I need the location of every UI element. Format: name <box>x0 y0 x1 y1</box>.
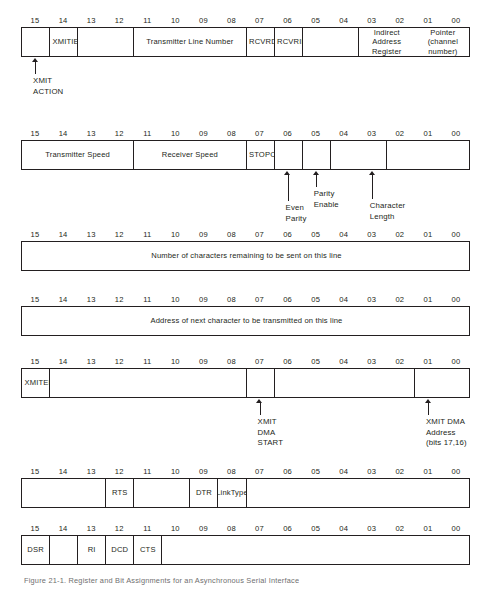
bit-field-labeled: LinkType <box>218 479 246 507</box>
bit-number-label: 13 <box>77 228 105 241</box>
bit-number-label: 10 <box>161 293 189 306</box>
callout-label: EvenParity <box>286 203 307 224</box>
register-4-box: Address of next character to be transmit… <box>21 306 470 336</box>
bit-number-label: 10 <box>161 465 189 478</box>
bit-number-label: 06 <box>274 522 302 535</box>
bit-field-label-line: STOP <box>249 150 270 159</box>
bit-number-label: 11 <box>133 293 161 306</box>
bit-number-label: 03 <box>358 522 386 535</box>
bit-number-label: 06 <box>274 14 302 27</box>
bit-number-label: 00 <box>442 522 470 535</box>
bit-field-labeled: RCVRDONE <box>247 28 275 56</box>
register-6-box: RTSDTRLinkType <box>21 478 470 508</box>
bit-number-label: 07 <box>246 522 274 535</box>
bit-number-label: 11 <box>133 522 161 535</box>
bit-field-label-line: RCVR <box>249 37 271 46</box>
bit-number-label: 11 <box>133 127 161 140</box>
bit-field-empty <box>275 141 303 169</box>
bit-field-empty <box>275 369 415 397</box>
bit-number-label: 06 <box>274 293 302 306</box>
bit-number-label: 01 <box>414 14 442 27</box>
bit-number-label: 14 <box>49 465 77 478</box>
callout-label-line: ACTION <box>33 87 63 98</box>
bit-number-label: 14 <box>49 127 77 140</box>
bit-number-label: 05 <box>302 522 330 535</box>
callout-label-line: (bits 17,16) <box>426 438 467 449</box>
bit-number-label: 08 <box>217 127 245 140</box>
figure-caption: Figure 21-1. Register and Bit Assignment… <box>24 576 299 589</box>
bit-number-label: 01 <box>414 522 442 535</box>
bit-field-label-line: Type <box>231 488 247 497</box>
bit-number-label: 12 <box>105 293 133 306</box>
bit-number-label: 13 <box>77 355 105 368</box>
bit-field-labeled: DCD <box>106 536 134 564</box>
callout-label-line: XMIT DMA <box>426 417 467 428</box>
callout-label-line: Even <box>286 203 307 214</box>
bit-number-label: 00 <box>442 465 470 478</box>
bit-field-labeled: DTR <box>190 479 218 507</box>
bit-number-label: 08 <box>217 522 245 535</box>
register-4: 15141312111009080706050403020100Address … <box>21 293 470 336</box>
bit-field-label-line: XMIT <box>53 37 72 46</box>
register-1: 15141312111009080706050403020100XMITIETr… <box>21 14 470 57</box>
bit-number-label: 13 <box>77 465 105 478</box>
bit-field-labeled: Indirect Address RegisterPointer (channe… <box>359 28 471 56</box>
bit-number-label: 08 <box>217 293 245 306</box>
register-5: 15141312111009080706050403020100XMITENAB… <box>21 355 470 398</box>
bit-number-label: 02 <box>386 293 414 306</box>
callout-label-line: Character <box>370 201 406 212</box>
bit-number-label: 11 <box>133 228 161 241</box>
bit-field-label-line: DCD <box>111 545 128 554</box>
bit-number-label: 07 <box>246 127 274 140</box>
bit-field-label-line: Indirect Address Register <box>359 28 415 56</box>
bit-field-empty <box>22 28 50 56</box>
bit-number-label: 09 <box>189 522 217 535</box>
register-6-bit-header: 15141312111009080706050403020100 <box>21 465 470 478</box>
bit-field-empty <box>387 141 471 169</box>
bit-field-label-line: Transmitter Line Number <box>146 37 233 46</box>
bit-number-label: 06 <box>274 228 302 241</box>
bit-number-label: 00 <box>442 127 470 140</box>
bit-field-empty <box>78 28 134 56</box>
bit-field-labeled: DSR <box>22 536 50 564</box>
bit-number-label: 08 <box>217 228 245 241</box>
bit-field-labeled: XMITIE <box>50 28 78 56</box>
register-2-box: Transmitter SpeedReceiver SpeedSTOPCode <box>21 140 470 170</box>
bit-number-label: 07 <box>246 14 274 27</box>
register-1-bit-header: 15141312111009080706050403020100 <box>21 14 470 27</box>
bit-number-label: 04 <box>330 355 358 368</box>
bit-number-label: 03 <box>358 228 386 241</box>
bit-field-label-line: RCVR <box>277 37 299 46</box>
register-4-bit-header: 15141312111009080706050403020100 <box>21 293 470 306</box>
bit-number-label: 07 <box>246 355 274 368</box>
bit-number-label: 04 <box>330 293 358 306</box>
bit-number-label: 12 <box>105 522 133 535</box>
bit-field-label-line: Pointer (channel number) <box>415 28 471 56</box>
bit-number-label: 15 <box>21 522 49 535</box>
register-5-bit-header: 15141312111009080706050403020100 <box>21 355 470 368</box>
bit-field-label-line: Address of next character to be transmit… <box>150 316 342 325</box>
bit-number-label: 05 <box>302 228 330 241</box>
bit-number-label: 14 <box>49 355 77 368</box>
register-7-bit-header: 15141312111009080706050403020100 <box>21 522 470 535</box>
bit-number-label: 10 <box>161 355 189 368</box>
register-2: 15141312111009080706050403020100Transmit… <box>21 127 470 170</box>
bit-number-label: 13 <box>77 522 105 535</box>
bit-number-label: 06 <box>274 465 302 478</box>
bit-number-label: 07 <box>246 228 274 241</box>
bit-number-label: 08 <box>217 465 245 478</box>
bit-field-labeled: STOPCode <box>247 141 275 169</box>
bit-number-label: 01 <box>414 465 442 478</box>
bit-number-label: 14 <box>49 14 77 27</box>
bit-number-label: 09 <box>189 355 217 368</box>
bit-field-empty <box>415 369 471 397</box>
bit-field-label-line: RI <box>88 545 96 554</box>
callout-label-line: XMIT <box>258 417 284 428</box>
callout-label-line: Parity <box>286 214 307 225</box>
arrow-stem <box>316 175 317 187</box>
bit-number-label: 02 <box>386 14 414 27</box>
bit-number-label: 04 <box>330 127 358 140</box>
bit-number-label: 02 <box>386 127 414 140</box>
bit-number-label: 10 <box>161 228 189 241</box>
bit-field-labeled: Transmitter Speed <box>22 141 134 169</box>
